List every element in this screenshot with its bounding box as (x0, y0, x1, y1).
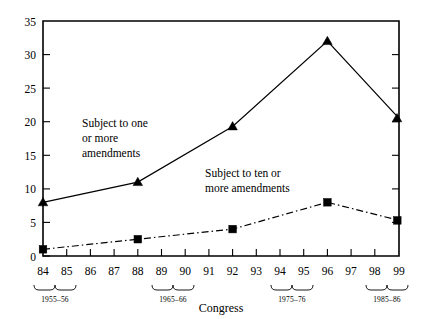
year-bracket-1965-66: 1965–66 (152, 285, 194, 304)
y-tick-label: 20 (25, 116, 37, 128)
x-tick-label: 93 (251, 265, 263, 277)
data-point-marker (39, 246, 47, 254)
series-subject-to-ten-or-more-amendments (39, 199, 401, 254)
annotation-line: Subject to one (82, 117, 148, 130)
data-point-marker (394, 217, 402, 225)
y-axis-tick-labels: 35 30 25 20 15 10 5 0 (25, 16, 37, 263)
x-tick-label: 84 (37, 265, 49, 277)
annotation-line: Subject to ten or (205, 167, 281, 180)
annotation-line: or more (82, 132, 118, 144)
x-tick-label: 90 (179, 265, 191, 277)
bracket-label: 1985–86 (373, 295, 401, 304)
x-tick-label: 99 (393, 265, 405, 277)
y-tick-label: 15 (25, 150, 37, 162)
year-bracket-1955-56: 1955–56 (34, 285, 76, 304)
data-point-marker (323, 36, 333, 44)
year-bracket-1985-86: 1985–86 (366, 285, 408, 304)
data-point-marker (392, 114, 402, 122)
y-tick-label: 25 (25, 83, 37, 95)
data-point-marker (134, 235, 142, 243)
y-tick-label: 30 (25, 49, 37, 61)
chart-container: 35 30 25 20 15 10 5 0 (0, 0, 433, 319)
bracket-label: 1965–66 (159, 295, 187, 304)
year-bracket-1975-76: 1975–76 (271, 285, 313, 304)
y-tick-label: 35 (25, 16, 37, 28)
x-axis-title: Congress (199, 301, 244, 315)
data-point-marker (324, 199, 332, 207)
bracket-label: 1975–76 (278, 295, 306, 304)
x-tick-label: 98 (369, 265, 381, 277)
x-tick-label: 91 (203, 265, 215, 277)
annotation-one-or-more: Subject to one or more amendments (82, 117, 148, 159)
annotation-ten-or-more: Subject to ten or more amendments (205, 167, 290, 194)
y-tick-label: 10 (25, 183, 37, 195)
x-tick-label: 89 (156, 265, 168, 277)
x-tick-label: 92 (227, 265, 239, 277)
y-tick-label: 5 (30, 217, 36, 229)
x-tick-label: 97 (345, 265, 357, 277)
bracket-label: 1955–56 (41, 295, 69, 304)
data-point-marker (229, 225, 237, 233)
x-tick-label: 88 (132, 265, 144, 277)
x-tick-label: 96 (322, 265, 334, 277)
annotation-line: more amendments (205, 182, 290, 194)
x-tick-label: 85 (61, 265, 73, 277)
x-axis-tick-labels: 84 85 86 87 88 89 90 91 92 93 94 95 96 9… (37, 265, 405, 277)
x-tick-label: 94 (274, 265, 286, 277)
x-tick-label: 95 (298, 265, 310, 277)
x-tick-label: 87 (108, 265, 120, 277)
data-point-marker (133, 177, 143, 185)
annotation-line: amendments (82, 147, 141, 159)
x-axis-ticks (67, 249, 375, 256)
x-tick-label: 86 (85, 265, 97, 277)
y-tick-label: 0 (30, 251, 36, 263)
line-chart: 35 30 25 20 15 10 5 0 (0, 0, 433, 319)
